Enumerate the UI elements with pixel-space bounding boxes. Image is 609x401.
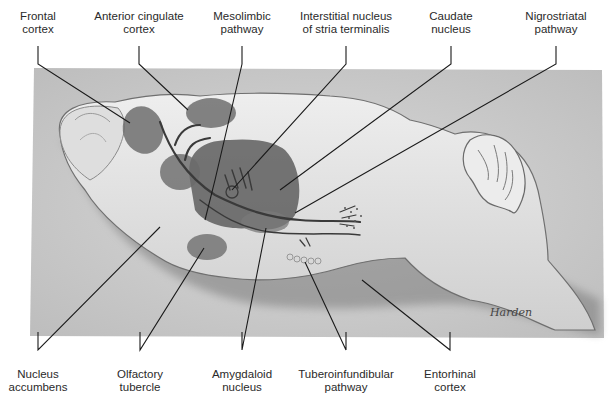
nucleus-accumbens-region: [160, 154, 200, 190]
artist-signature: Harden: [489, 306, 532, 319]
label-frontal-cortex: Frontal cortex: [20, 10, 56, 36]
label-entorhinal-cortex: Entorhinal cortex: [424, 368, 476, 394]
olfactory-tubercle-region: [187, 234, 227, 260]
label-nigrostriatal-pathway: Nigrostriatal pathway: [525, 10, 586, 36]
label-anterior-cingulate-cortex: Anterior cingulate cortex: [94, 10, 184, 36]
label-amygdaloid-nucleus: Amygdaloid nucleus: [212, 368, 272, 394]
label-nucleus-accumbens: Nucleus accumbens: [9, 368, 68, 394]
label-interstitial-nucleus: Interstitial nucleus of stria terminalis: [300, 10, 392, 36]
label-mesolimbic-pathway: Mesolimbic pathway: [213, 10, 271, 36]
brain-illustration: Harden: [0, 0, 609, 401]
label-olfactory-tubercle: Olfactory tubercle: [117, 368, 163, 394]
label-tuberoinfundibular-pathway: Tuberoinfundibular pathway: [298, 368, 393, 394]
label-caudate-nucleus: Caudate nucleus: [429, 10, 472, 36]
